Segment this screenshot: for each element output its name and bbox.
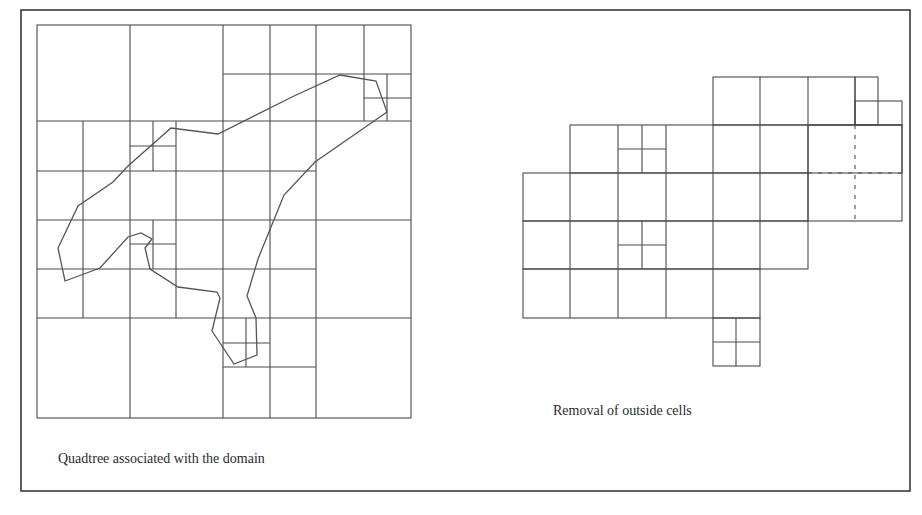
quadtree-figure [0,0,922,515]
left-panel-caption: Quadtree associated with the domain [58,451,265,467]
right-panel-caption: Removal of outside cells [553,403,692,419]
left-quadtree-grid [37,25,411,418]
right-quadtree-cells [523,77,902,366]
figure-frame [21,10,910,491]
